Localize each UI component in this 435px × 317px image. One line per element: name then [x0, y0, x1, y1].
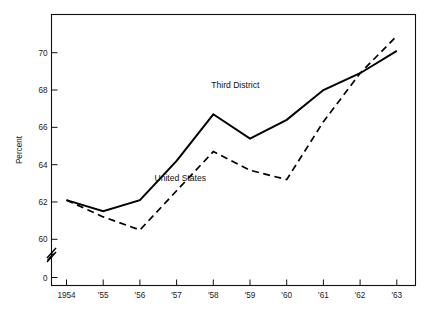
- chart-container: 0606264666870 1954'55'56'57'58'59'60'61'…: [0, 0, 435, 317]
- series-label-united-states: United States: [154, 173, 206, 183]
- x-tick-label: '55: [98, 291, 109, 300]
- x-tick-label: '63: [391, 291, 402, 300]
- series-line-united-states: [67, 36, 397, 230]
- plot-frame: [52, 15, 416, 286]
- x-tick-label: '56: [135, 291, 146, 300]
- y-tick-label: 66: [38, 123, 48, 132]
- x-tick-label: '58: [208, 291, 219, 300]
- y-tick-label: 60: [38, 235, 48, 244]
- x-tick-label: '61: [318, 291, 329, 300]
- y-tick-label: 70: [38, 49, 48, 58]
- series-line-third-district: [67, 51, 397, 211]
- x-tick-label: '60: [281, 291, 292, 300]
- y-axis-title: Percent: [15, 135, 24, 164]
- x-tick-label: '57: [171, 291, 182, 300]
- y-tick-label: 64: [38, 161, 48, 170]
- x-tick-label: '59: [245, 291, 256, 300]
- x-tick-label: 1954: [57, 291, 76, 300]
- line-chart: 0606264666870 1954'55'56'57'58'59'60'61'…: [0, 0, 435, 317]
- series-group: [67, 36, 397, 230]
- y-tick-label: 0: [43, 274, 48, 283]
- x-axis-ticks: 1954'55'56'57'58'59'60'61'62'63: [57, 280, 402, 300]
- y-axis-ticks: 0606264666870: [38, 49, 57, 283]
- series-label-third-district: Third District: [211, 80, 260, 90]
- y-tick-label: 62: [38, 198, 48, 207]
- y-tick-label: 68: [38, 86, 48, 95]
- x-tick-label: '62: [355, 291, 366, 300]
